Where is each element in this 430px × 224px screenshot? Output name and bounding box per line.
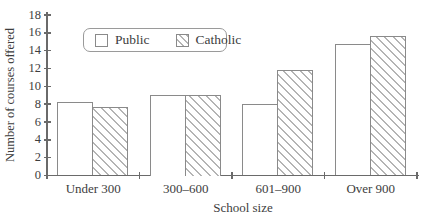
bar-catholic-under-300 xyxy=(92,107,128,176)
y-tick-label-12: 12 xyxy=(11,62,41,75)
y-tick-label-18: 18 xyxy=(11,9,41,22)
catholic-swatch-icon xyxy=(176,34,189,47)
y-tick-label-16: 16 xyxy=(11,26,41,39)
y-tick-18 xyxy=(44,14,51,16)
y-tick-label-8: 8 xyxy=(11,98,41,111)
y-tick-16 xyxy=(44,32,51,34)
y-tick-14 xyxy=(44,50,51,52)
legend-item-public: Public xyxy=(95,32,150,48)
x-axis-title: School size xyxy=(60,200,426,216)
y-tick-label-10: 10 xyxy=(11,80,41,93)
x-tick-3 xyxy=(324,172,326,179)
legend-item-catholic: Catholic xyxy=(176,32,242,48)
y-tick-8 xyxy=(44,103,51,105)
x-category-label-over-900: Over 900 xyxy=(325,181,418,196)
bar-public-over-900 xyxy=(335,44,371,176)
legend-label-catholic: Catholic xyxy=(196,32,242,48)
x-tick-0 xyxy=(46,172,48,179)
legend: Public Catholic xyxy=(83,28,227,52)
y-tick-label-4: 4 xyxy=(11,133,41,146)
y-tick-2 xyxy=(44,157,51,159)
bar-catholic-over-900 xyxy=(370,36,406,175)
bar-catholic-300-600 xyxy=(185,95,221,175)
x-category-label-601-900: 601–900 xyxy=(232,181,325,196)
y-tick-label-2: 2 xyxy=(11,151,41,164)
y-tick-label-6: 6 xyxy=(11,116,41,129)
y-tick-label-0: 0 xyxy=(11,169,41,182)
bar-chart-figure: Number of courses offered Under 300300–6… xyxy=(0,0,430,224)
y-tick-12 xyxy=(44,68,51,70)
bar-catholic-601-900 xyxy=(277,70,313,175)
x-category-label-under-300: Under 300 xyxy=(47,181,140,196)
bar-public-601-900 xyxy=(242,104,278,175)
y-axis-line xyxy=(46,12,48,176)
y-tick-6 xyxy=(44,121,51,123)
bar-public-under-300 xyxy=(57,102,93,175)
y-tick-4 xyxy=(44,139,51,141)
x-tick-2 xyxy=(231,172,233,179)
x-tick-1 xyxy=(139,172,141,179)
public-swatch-icon xyxy=(95,34,108,47)
y-tick-label-14: 14 xyxy=(11,44,41,57)
y-tick-10 xyxy=(44,86,51,88)
x-category-label-300-600: 300–600 xyxy=(140,181,233,196)
legend-label-public: Public xyxy=(115,32,150,48)
bar-public-300-600 xyxy=(150,95,186,175)
x-tick-4 xyxy=(416,172,418,179)
